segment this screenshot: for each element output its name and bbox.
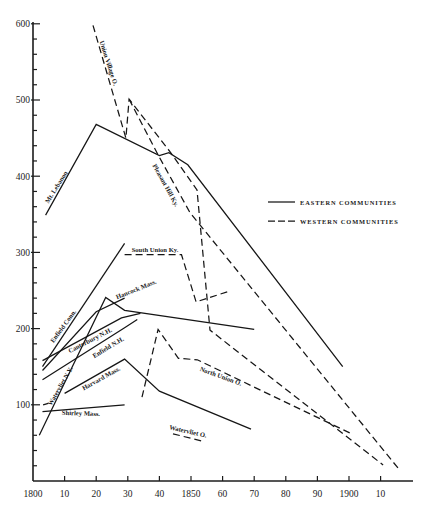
x-tick-label: 1850 [182,489,201,499]
y-tick-label: 400 [16,172,31,182]
x-tick-label: 80 [281,489,291,499]
series-labels: Mt. LebanonEnfield Conn.Hancock Mass.Can… [43,40,243,439]
x-tick-label: 10 [60,489,70,499]
series-label-south-union-ky: South Union Ky. [132,246,179,253]
x-tick-label: 60 [218,489,228,499]
x-tick-label: 30 [123,489,133,499]
y-tick-label: 200 [16,324,31,334]
series-label-north-union-o: North Union O. [199,365,243,387]
legend: EASTERN COMMUNITIES WESTERN COMMUNITIES [268,199,399,225]
series-line-pleasant-hill-ky [129,99,398,468]
series-label-shirley-mass: Shirley Mass. [62,409,101,417]
x-tick-label: 20 [91,489,101,499]
legend-item-western: WESTERN COMMUNITIES [268,218,399,225]
x-tick-label: 90 [313,489,323,499]
legend-label-eastern: EASTERN COMMUNITIES [300,199,397,206]
x-tick-label: 10 [376,489,386,499]
shaker-population-chart: 100200300400500600 180010203040185060708… [0,0,428,507]
y-axis-ticks: 100200300400500600 [16,19,40,466]
series-line-south-union-ky [125,255,229,302]
x-tick-label: 1900 [340,489,359,499]
x-tick-label: 1800 [24,489,43,499]
y-tick-label: 600 [16,19,31,29]
series-line-north-union-o [142,329,350,433]
series-label-mt-lebanon: Mt. Lebanon [43,169,69,204]
y-tick-label: 100 [16,400,31,410]
y-tick-label: 300 [16,248,31,258]
series-label-harvard-mass: Harvard Mass. [81,364,122,391]
x-tick-label: 70 [249,489,259,499]
series-label-enfield-conn: Enfield Conn. [49,308,78,344]
y-tick-label: 500 [16,95,31,105]
x-tick-label: 40 [155,489,165,499]
series-label-watervliet-o: Watervliet O. [169,423,208,438]
legend-item-eastern: EASTERN COMMUNITIES [268,199,397,206]
legend-label-western: WESTERN COMMUNITIES [300,218,399,225]
series-lines [39,25,398,468]
series-line-harvard-mass [65,359,251,429]
series-label-hancock-mass: Hancock Mass. [115,278,158,301]
series-label-watervliet-n-y: Watervliet N.Y. [46,365,74,406]
x-axis-ticks: 180010203040185060708090190010 [24,476,386,499]
